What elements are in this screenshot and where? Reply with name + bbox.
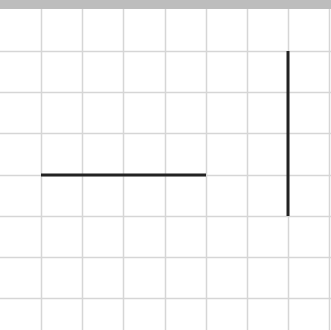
top-band	[0, 0, 331, 9]
grid-canvas	[0, 0, 331, 330]
